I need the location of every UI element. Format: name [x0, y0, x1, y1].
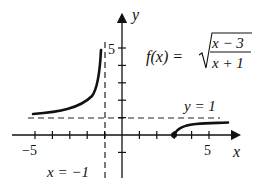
endpoint-dot — [171, 132, 177, 138]
function-graph: y x 5 −5 5 x = −1 y = 1 f(x) = x − 3 x +… — [0, 0, 262, 188]
svg-text:x + 1: x + 1 — [211, 55, 244, 71]
x-axis-label: x — [232, 143, 240, 160]
x-tick-label-5: 5 — [204, 143, 211, 158]
x-tick-label-neg5: −5 — [22, 143, 37, 158]
right-branch-curve — [174, 123, 228, 136]
function-formula: f(x) = x − 3 x + 1 — [146, 33, 252, 71]
y-axis-label: y — [130, 6, 140, 24]
y-tick-label-5: 5 — [108, 42, 115, 57]
svg-text:x − 3: x − 3 — [211, 35, 244, 51]
svg-text:f(x) =: f(x) = — [146, 48, 183, 66]
vertical-asymptote-label: x = −1 — [46, 164, 89, 180]
horizontal-asymptote-label: y = 1 — [182, 98, 216, 114]
left-branch-curve — [33, 50, 101, 114]
